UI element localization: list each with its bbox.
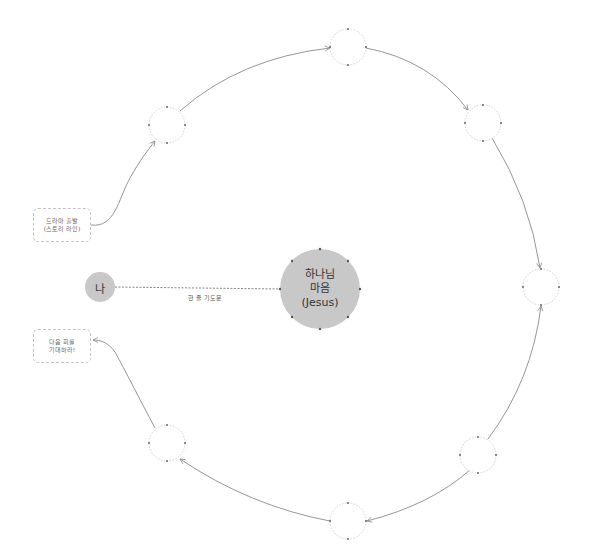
edge-bottom-to-bottomleft	[180, 459, 330, 521]
prayer-line	[115, 287, 280, 289]
ring-node-bottom	[330, 503, 366, 539]
ring-node-bottom-right	[460, 437, 496, 473]
ring-node-bottom-left	[149, 425, 185, 461]
center-line-2: 마음	[280, 282, 360, 296]
start-box-line-2: (스토리 라인)	[44, 225, 81, 233]
center-node-label: 하나님 마음 (Jesus)	[280, 268, 360, 310]
me-node-label: 나	[85, 280, 115, 296]
edge-bottomright-to-right	[488, 306, 541, 439]
end-box[interactable]: 다음 회를 기대하라!	[33, 329, 91, 363]
start-box-line-1: 드라마 출발	[46, 217, 78, 225]
edge-bottomright-to-bottom	[367, 470, 470, 521]
end-box-line-2: 기대하라!	[49, 346, 75, 354]
center-line-3: (Jesus)	[280, 296, 360, 310]
center-line-1: 하나님	[280, 268, 360, 282]
edge-top-to-topright	[366, 48, 468, 110]
start-box[interactable]: 드라마 출발 (스토리 라인)	[33, 208, 91, 242]
edge-topleft-to-top	[180, 48, 330, 111]
ring-node-top-left	[149, 107, 185, 143]
ring-node-top	[330, 29, 366, 65]
ring-node-top-right	[465, 105, 501, 141]
prayer-edge-label: 한 줄 기도문	[175, 293, 235, 302]
edge-start-to-topleft	[91, 141, 155, 225]
edge-topright-to-right	[492, 138, 540, 268]
end-box-line-1: 다음 회를	[49, 338, 75, 346]
edge-bottomleft-to-end	[93, 340, 155, 428]
ring-node-right	[523, 269, 559, 305]
